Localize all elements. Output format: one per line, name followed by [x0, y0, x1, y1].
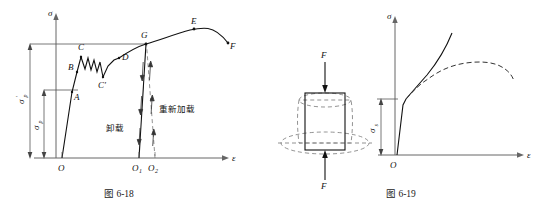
annotation-unloading: 卸载 — [106, 123, 124, 133]
x-axis-label-right: ε — [527, 150, 531, 160]
dimension-sigma-b — [28, 43, 33, 159]
point-label-a: A — [73, 92, 80, 102]
strain-mark-o2-label: O — [148, 163, 155, 173]
curve-yield-plateau — [77, 57, 119, 77]
point-label-f: F — [229, 41, 236, 51]
dimension-sigma-s — [379, 98, 384, 156]
strain-mark-o2-sub: 2 — [155, 168, 158, 174]
x-axis-arrow-left — [222, 155, 229, 160]
figures-svg: σ ε O O 1 O 2 A B C C' D G E F σ — [0, 0, 550, 213]
strain-mark-o1-label: O — [132, 163, 139, 173]
point-dot-f — [227, 42, 230, 45]
point-label-c: C — [78, 42, 85, 52]
point-dot-b — [76, 71, 78, 73]
dimension-sigma-p-sub: p — [37, 121, 43, 125]
dimension-sigma-b-prime: ' — [15, 96, 21, 98]
dimension-sigma-s-sub: s — [373, 124, 379, 127]
point-label-d: D — [121, 52, 129, 62]
force-arrow-bottom — [322, 150, 328, 180]
point-label-g: G — [141, 30, 148, 40]
caption-figure-6-18: 图 6-18 — [104, 186, 134, 200]
y-axis-label-left: σ — [48, 8, 53, 18]
dimension-label-sigma-s: σ s — [367, 124, 379, 134]
caption-figure-6-19: 图 6-19 — [386, 186, 416, 200]
point-dot-d — [118, 57, 120, 59]
figure-root: σ ε O O 1 O 2 A B C C' D G E F σ — [0, 0, 550, 213]
force-label-top: F — [320, 50, 327, 60]
point-label-c-prime: C' — [98, 80, 107, 90]
curve-strain-hardening — [119, 28, 208, 58]
dimension-sigma-s-symbol: σ — [367, 128, 377, 133]
dimension-label-sigma-b: σ ' p — [15, 95, 28, 105]
x-axis-label-left: ε — [232, 153, 236, 163]
force-arrow-top — [322, 62, 328, 93]
arrows-reloading — [149, 61, 156, 146]
strain-mark-o1: O 1 — [132, 163, 142, 174]
origin-label-left: O — [58, 163, 65, 173]
force-label-bottom: F — [320, 181, 327, 191]
y-axis-arrow-left — [53, 13, 58, 20]
figure-6-19: F F σ s σ ε — [278, 11, 531, 191]
dimension-sigma-p-symbol: σ — [31, 125, 41, 130]
curve-elastic-region — [62, 72, 77, 158]
point-dot-e — [193, 28, 196, 31]
dimension-sigma-b-symbol: σ — [16, 99, 26, 104]
point-dot-cprime — [102, 76, 104, 78]
point-dot-a — [71, 91, 73, 93]
point-dot-g — [145, 43, 148, 46]
x-axis-arrow-right — [517, 152, 524, 157]
curve-necking — [208, 29, 228, 44]
annotation-reloading: 重新加载 — [159, 104, 195, 114]
dimension-sigma-b-sub: p — [22, 95, 28, 99]
origin-label-right: O — [390, 160, 397, 170]
specimen-original-rect — [305, 93, 345, 150]
point-label-e: E — [190, 16, 197, 26]
dimension-label-sigma-p: σ p — [31, 121, 43, 131]
point-dot-c — [80, 56, 82, 58]
figure-6-18: σ ε O O 1 O 2 A B C C' D G E F σ — [15, 8, 236, 174]
strain-mark-o2: O 2 — [148, 163, 158, 174]
specimen-deformed-outline — [298, 100, 353, 143]
y-axis-label-right: σ — [387, 11, 392, 21]
strain-mark-o1-sub: 1 — [139, 168, 142, 174]
point-label-b: B — [68, 62, 74, 72]
curve-compression — [397, 33, 452, 155]
y-axis-arrow-right — [392, 16, 397, 23]
